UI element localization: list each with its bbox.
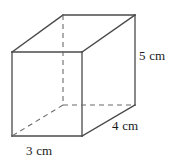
prism-figure: 5 cm 4 cm 3 cm	[0, 0, 177, 165]
top-left-depth-edge	[12, 15, 63, 52]
height-dimension-label: 5 cm	[139, 48, 165, 64]
top-right-depth-edge	[82, 15, 135, 52]
depth-dimension-label: 4 cm	[112, 118, 138, 134]
prism-drawing	[0, 0, 177, 165]
hidden-bottom-left-depth-edge	[12, 105, 63, 136]
width-dimension-label: 3 cm	[26, 143, 52, 159]
